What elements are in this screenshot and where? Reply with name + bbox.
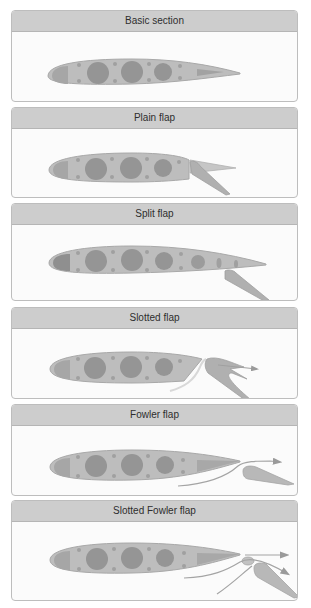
airfoil-diagram-slotted-fowler-flap [12,522,297,601]
panel-title: Fowler flap [12,405,297,426]
airfoil-diagram-plain-flap [12,129,297,198]
panel-slotted-fowler-flap: Slotted Fowler flap [11,500,298,601]
panel-title: Slotted Fowler flap [12,501,297,522]
panel-title: Slotted flap [12,308,297,329]
panel-basic-section: Basic section [11,10,298,102]
panel-slotted-flap: Slotted flap [11,307,298,399]
airfoil-diagram-fowler-flap [12,426,297,496]
panel-title: Split flap [12,204,297,225]
panel-plain-flap: Plain flap [11,107,298,198]
panel-fowler-flap: Fowler flap [11,404,298,496]
airfoil-diagram-basic [12,32,297,102]
panel-title: Plain flap [12,108,297,129]
airfoil-diagram-slotted-flap [12,329,297,399]
airfoil-diagram-split-flap [12,225,297,301]
panel-split-flap: Split flap [11,203,298,301]
panel-title: Basic section [12,11,297,32]
